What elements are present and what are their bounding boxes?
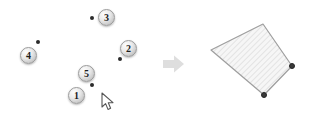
vertex-right-handle[interactable] — [289, 63, 295, 69]
badge-2[interactable]: 2 — [120, 40, 137, 57]
badge-3[interactable]: 3 — [98, 9, 115, 26]
point-a-dot[interactable] — [36, 40, 40, 44]
badge-5[interactable]: 5 — [78, 65, 95, 82]
transform-arrow-icon — [163, 54, 185, 74]
badge-4[interactable]: 4 — [20, 47, 37, 64]
badge-1[interactable]: 1 — [68, 87, 85, 104]
polygon-result-canvas[interactable] — [0, 115, 143, 129]
screenshot-root: 4 3 2 5 1 — [0, 0, 336, 129]
point-c-dot[interactable] — [118, 57, 122, 61]
polygon-shape[interactable] — [186, 5, 329, 120]
point-selection-canvas[interactable]: 4 3 2 5 1 — [0, 0, 150, 115]
quadrilateral-path[interactable] — [211, 24, 292, 95]
vertex-bottom-handle[interactable] — [261, 92, 267, 98]
mouse-pointer-icon — [101, 92, 115, 111]
point-d-dot[interactable] — [90, 83, 94, 87]
point-b-dot[interactable] — [90, 16, 94, 20]
